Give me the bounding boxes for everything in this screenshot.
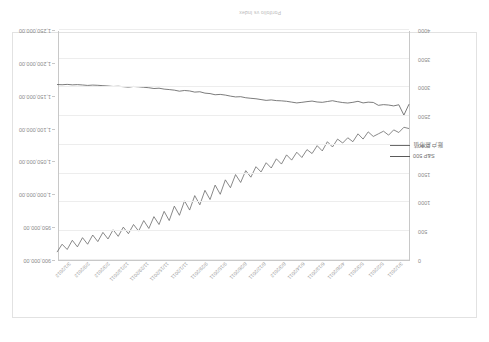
x-axis-tick: 4/28/2011 [326,261,346,281]
left-axis-tick: 0 [418,258,421,264]
x-axis-tick: 2/9/2012 [74,261,92,279]
series-lines [57,30,409,260]
x-axis-tick: 6/14/2011 [287,261,307,281]
right-axis-tick: 1,000,000.00 [19,192,51,198]
right-axis-tick-mark [52,63,55,64]
left-axis-tick: 3500 [418,57,430,63]
gridline [59,144,409,145]
right-axis-tick-mark [52,260,55,261]
x-axis-tick: 8/3/2012 [269,261,287,279]
gridline [59,58,409,59]
right-axis-tick-mark [52,129,55,130]
chart-object-frame[interactable]: 3/1/20115/2/20115/3/20114/28/20116/13/20… [12,32,477,318]
x-axis-tick: 6/13/2011 [307,261,327,281]
x-axis-tick: 8/12/2011 [248,261,268,281]
x-axis-tick-labels: 3/1/20115/2/20115/3/20114/28/20116/13/20… [58,261,410,307]
x-axis-tick: 9/29/2011 [189,261,209,281]
plot-area[interactable] [58,31,410,261]
series-line [57,84,409,115]
x-axis-tick: 3/1/2011 [387,261,405,279]
right-axis-tick: 950,000.00 [23,225,51,231]
chart-page: Portfolio vs Index 3/1/20115/2/20115/3/2… [0,0,489,342]
x-axis-tick: 3/1/2012 [54,261,72,279]
x-axis-tick: 5/3/2011 [348,261,366,279]
gridline [59,259,409,260]
x-axis-tick: 11/15/2011 [148,261,169,282]
x-axis-tick: 12/13/2011 [109,261,131,283]
left-axis-tick: 500 [418,229,427,235]
right-axis-tick: 1,150,000.00 [19,94,51,100]
left-axis-tick: 4000 [418,28,430,34]
right-axis-tick: 1,050,000.00 [19,159,51,165]
right-axis-tick-mark [52,30,55,31]
gridline [59,202,409,203]
legend-color-swatch [390,145,410,146]
left-axis-tick: 3000 [418,86,430,92]
right-axis-tick-mark [52,194,55,195]
x-axis-tick: 11/29/2011 [129,261,150,282]
series-line [57,127,409,252]
legend-item[interactable]: S&P 500 [390,151,462,162]
x-axis-tick: 2/3/2012 [93,261,111,279]
right-axis-tick: 1,100,000.00 [19,127,51,133]
legend-item-label: S&P 500 [413,154,435,160]
legend-item[interactable]: 账户总市值 [390,140,462,151]
gridline [59,173,409,174]
right-axis-tick-mark [52,96,55,97]
x-axis-tick: 11/1/2011 [170,261,189,280]
x-axis-tick: 9/15/2011 [209,261,229,281]
right-axis-tick: 1,200,000.00 [19,61,51,67]
legend-item-label: 账户总市值 [413,142,443,150]
gridline [59,230,409,231]
right-axis-tick: 900,000.00 [23,258,51,264]
right-axis-tick-mark [52,161,55,162]
gridline [59,29,409,30]
gridline [59,87,409,88]
x-axis-tick: 8/26/2011 [228,261,248,281]
x-axis-tick: 5/2/2011 [367,261,385,279]
chart-legend[interactable]: S&P 500账户总市值 [390,140,462,162]
left-axis-tick: 1000 [418,201,430,207]
left-axis-tick: 1500 [418,172,430,178]
right-axis-tick: 1,250,000.00 [19,28,51,34]
gridline [59,115,409,116]
right-axis-tick-labels: 900,000.00950,000.001,000,000.001,050,00… [0,31,55,261]
right-axis-tick-mark [52,227,55,228]
left-axis-tick: 2500 [418,114,430,120]
legend-color-swatch [390,156,410,157]
page-title: Portfolio vs Index [239,10,281,16]
